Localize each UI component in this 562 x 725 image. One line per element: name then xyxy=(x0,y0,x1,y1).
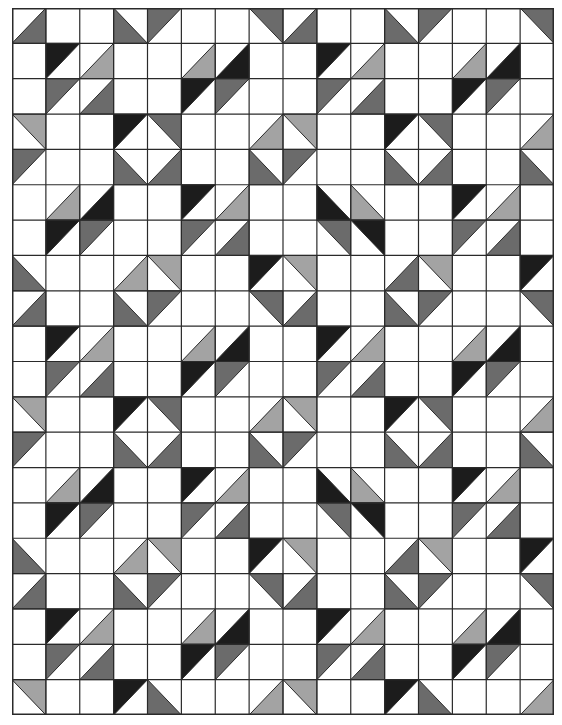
quilt-grid xyxy=(12,8,554,715)
quilt-pattern-graphic xyxy=(12,8,554,715)
